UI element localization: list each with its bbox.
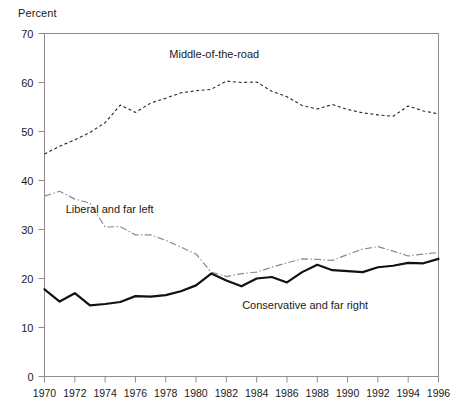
x-tick-label: 1970 bbox=[33, 387, 57, 399]
x-tick-label: 1988 bbox=[306, 387, 330, 399]
x-tick-label: 1980 bbox=[184, 387, 208, 399]
y-tick-label: 0 bbox=[27, 371, 33, 383]
line-chart-plot: 010203040506070 197019721974197619781980… bbox=[0, 0, 452, 420]
x-tick-label: 1984 bbox=[245, 387, 269, 399]
series-label-liberal-and-far-left: Liberal and far left bbox=[66, 203, 154, 215]
x-tick-label: 1996 bbox=[427, 387, 451, 399]
x-tick-label: 1982 bbox=[215, 387, 239, 399]
y-axis-tickmarks bbox=[39, 34, 45, 377]
x-tick-label: 1976 bbox=[124, 387, 148, 399]
y-tick-label: 50 bbox=[21, 126, 33, 138]
y-axis-labels: 010203040506070 bbox=[21, 28, 33, 383]
x-tick-label: 1978 bbox=[154, 387, 178, 399]
y-tick-label: 10 bbox=[21, 322, 33, 334]
x-tick-label: 1972 bbox=[63, 387, 87, 399]
series-label-conservative-and-far-right: Conservative and far right bbox=[242, 299, 368, 311]
chart-container: Percent 010203040506070 1970197219741976… bbox=[0, 0, 452, 420]
x-axis-tickmarks bbox=[45, 377, 439, 383]
series-label-middle-of-the-road: Middle-of-the-road bbox=[169, 48, 259, 60]
series-line-middle-of-the-road bbox=[45, 81, 439, 154]
y-tick-label: 40 bbox=[21, 175, 33, 187]
y-tick-label: 60 bbox=[21, 77, 33, 89]
x-tick-label: 1994 bbox=[397, 387, 421, 399]
y-tick-label: 20 bbox=[21, 273, 33, 285]
x-tick-label: 1992 bbox=[366, 387, 390, 399]
y-tick-label: 70 bbox=[21, 28, 33, 40]
x-tick-label: 1986 bbox=[275, 387, 299, 399]
x-tick-label: 1990 bbox=[336, 387, 360, 399]
x-tick-label: 1974 bbox=[93, 387, 117, 399]
y-tick-label: 30 bbox=[21, 224, 33, 236]
x-axis-labels: 1970197219741976197819801982198419861988… bbox=[33, 387, 451, 399]
